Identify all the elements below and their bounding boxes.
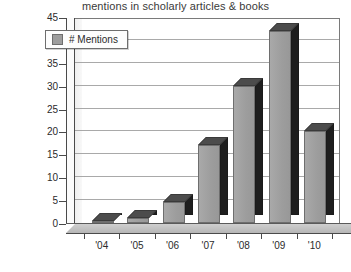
bar-front-face	[304, 131, 326, 223]
x-axis-tick-label: '09	[272, 240, 285, 252]
bar	[163, 202, 185, 223]
chart-floor-corner	[66, 224, 75, 233]
x-axis-tick-label: '07	[201, 240, 214, 252]
x-axis-tick	[332, 233, 333, 239]
bar-side-face	[326, 123, 334, 215]
chart-floor-edge	[66, 223, 351, 224]
gridline	[75, 108, 339, 109]
gridline	[75, 62, 339, 63]
y-axis-tick	[59, 178, 67, 179]
bar-side-face	[255, 78, 263, 215]
x-axis-tick-label: '06	[166, 240, 179, 252]
legend-swatch-icon	[52, 34, 63, 45]
bar-top-face	[92, 213, 122, 221]
y-axis-tick-label: 25	[47, 105, 58, 115]
y-axis-tick-label: 20	[47, 127, 58, 137]
bar-side-face	[291, 23, 299, 215]
bar-chart: mentions in scholarly articles & books 0…	[0, 0, 351, 272]
x-axis-tick	[190, 233, 191, 239]
x-axis-tick	[84, 233, 85, 239]
y-axis-tick-label: 35	[47, 59, 58, 69]
y-axis-tick	[59, 201, 67, 202]
bar	[269, 31, 291, 223]
y-axis-tick	[59, 132, 67, 133]
bar	[304, 131, 326, 223]
x-axis-tick-label: '05	[131, 240, 144, 252]
bar	[198, 145, 220, 223]
x-axis	[66, 233, 351, 234]
y-axis-tick-label: 0	[52, 219, 58, 229]
y-axis-tick-label: 45	[47, 13, 58, 23]
y-axis-tick	[59, 110, 67, 111]
bar-side-face	[220, 137, 228, 215]
plot-left-wall	[75, 19, 82, 223]
bar-front-face	[269, 31, 291, 223]
legend-entry-label: # Mentions	[69, 34, 118, 45]
y-axis-tick	[59, 87, 67, 88]
chart-floor	[66, 224, 351, 233]
y-axis-tick	[59, 18, 67, 19]
y-axis-tick-label: 15	[47, 150, 58, 160]
y-axis-tick	[59, 155, 67, 156]
x-axis-tick	[261, 233, 262, 239]
x-axis-tick-label: '08	[237, 240, 250, 252]
x-axis-tick-label: '10	[308, 240, 321, 252]
chart-legend: # Mentions	[45, 30, 128, 49]
x-axis-tick	[226, 233, 227, 239]
x-axis-tick	[297, 233, 298, 239]
x-axis-tick	[119, 233, 120, 239]
x-axis-tick	[155, 233, 156, 239]
bar-front-face	[233, 86, 255, 223]
bar-front-face	[198, 145, 220, 223]
bar	[233, 86, 255, 223]
y-axis-tick-label: 10	[47, 173, 58, 183]
y-axis-tick	[59, 64, 67, 65]
gridline	[75, 130, 339, 131]
x-axis-tick-label: '04	[95, 240, 108, 252]
y-axis-tick-label: 30	[47, 82, 58, 92]
bar-front-face	[163, 202, 185, 223]
y-axis-tick-label: 5	[52, 196, 58, 206]
gridline	[75, 85, 339, 86]
